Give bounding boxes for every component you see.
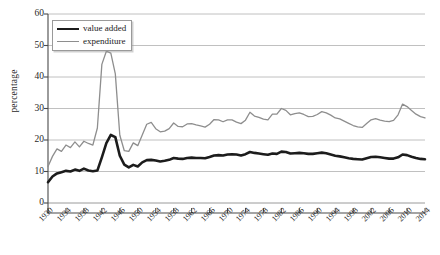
- series-line-value-added: [48, 135, 425, 182]
- chart-container: percentage 0102030405060 193019341938194…: [0, 0, 440, 255]
- legend-item-value-added: value added: [57, 24, 126, 33]
- legend-label-expenditure: expenditure: [83, 37, 125, 46]
- chart-legend: value added expenditure: [52, 20, 132, 51]
- legend-swatch-value-added: [57, 28, 79, 30]
- legend-item-expenditure: expenditure: [57, 37, 125, 46]
- legend-swatch-expenditure: [57, 41, 79, 42]
- legend-label-value-added: value added: [83, 24, 126, 33]
